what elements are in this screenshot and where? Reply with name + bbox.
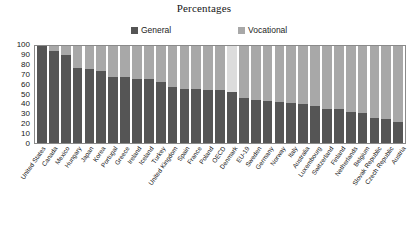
legend-label-general: General: [141, 25, 171, 35]
bar-column: [239, 46, 249, 143]
bar-segment-general: [96, 71, 106, 143]
y-axis-tick-label: 80: [21, 61, 30, 69]
bar-segment-general: [37, 46, 47, 143]
bar-segment-vocational: [96, 46, 106, 71]
bar-segment-vocational: [61, 46, 71, 55]
bar-segment-general: [322, 109, 332, 143]
bar-column: [156, 46, 166, 143]
bar-segment-general: [370, 118, 380, 143]
bar-segment-general: [132, 79, 142, 143]
bar-column: [381, 46, 391, 143]
bar-segment-general: [310, 106, 320, 143]
bar-segment-general: [334, 109, 344, 143]
bar-segment-general: [227, 92, 237, 143]
y-axis-tick-label: 10: [21, 130, 30, 138]
bar-column: [310, 46, 320, 143]
bar-segment-vocational: [108, 46, 118, 77]
bar-column: [168, 46, 178, 143]
bar-segment-general: [120, 77, 130, 143]
bar-segment-vocational: [132, 46, 142, 79]
bar-column: [49, 46, 59, 143]
bar-segment-general: [263, 101, 273, 143]
bar-segment-vocational: [310, 46, 320, 106]
y-axis-tick-label: 90: [21, 51, 30, 59]
bar-column: [108, 46, 118, 143]
bar-segment-vocational: [239, 46, 249, 98]
y-axis-tick-label: 30: [21, 110, 30, 118]
bar-segment-general: [108, 77, 118, 143]
plot-area: [34, 45, 406, 144]
bar-segment-general: [168, 87, 178, 143]
bar-segment-vocational: [180, 46, 190, 89]
bar-segment-vocational: [381, 46, 391, 119]
bar-segment-general: [358, 113, 368, 143]
bar-segment-general: [286, 103, 296, 143]
bar-segment-vocational: [393, 46, 403, 122]
bar-segment-general: [215, 90, 225, 143]
bar-series-group: [35, 46, 405, 143]
bar-segment-vocational: [191, 46, 201, 89]
bar-segment-vocational: [275, 46, 285, 102]
bar-column: [275, 46, 285, 143]
y-axis-tick-label: 100: [17, 41, 30, 49]
y-axis-tick-label: 0: [26, 140, 30, 148]
bar-column: [203, 46, 213, 143]
bar-column: [180, 46, 190, 143]
bar-segment-general: [49, 51, 59, 143]
bar-segment-vocational: [168, 46, 178, 87]
bar-segment-vocational: [85, 46, 95, 69]
bar-segment-vocational: [286, 46, 296, 103]
bar-segment-vocational: [120, 46, 130, 77]
bar-column: [96, 46, 106, 143]
chart-title: Percentages: [0, 2, 408, 14]
y-axis: 1009080706050403020100: [0, 45, 34, 144]
bar-segment-general: [346, 112, 356, 143]
bar-segment-general: [156, 82, 166, 143]
chart-container: Percentages General Vocational 100908070…: [0, 0, 408, 226]
legend-label-vocational: Vocational: [248, 25, 287, 35]
bar-segment-vocational: [251, 46, 261, 100]
bar-segment-vocational: [215, 46, 225, 90]
bar-column: [73, 46, 83, 143]
x-axis-labels: United StatesCanadaMexicoHungaryJapanKor…: [34, 145, 406, 226]
bar-column: [334, 46, 344, 143]
bar-column: [322, 46, 332, 143]
bar-column: [393, 46, 403, 143]
bar-segment-general: [393, 122, 403, 143]
bar-segment-general: [381, 119, 391, 143]
bar-column: [346, 46, 356, 143]
bar-segment-vocational: [227, 46, 237, 92]
legend-item-vocational: Vocational: [238, 25, 287, 35]
bar-column: [263, 46, 273, 143]
bar-segment-general: [203, 90, 213, 143]
y-axis-tick-label: 50: [21, 91, 30, 99]
bar-segment-vocational: [346, 46, 356, 112]
bar-column: [61, 46, 71, 143]
bar-segment-vocational: [73, 46, 83, 68]
y-axis-tick-label: 20: [21, 120, 30, 128]
legend-swatch-vocational-icon: [238, 27, 245, 34]
bar-segment-vocational: [144, 46, 154, 79]
bar-column: [251, 46, 261, 143]
y-axis-tick-label: 40: [21, 100, 30, 108]
bar-segment-vocational: [298, 46, 308, 104]
legend-item-general: General: [131, 25, 171, 35]
y-axis-tick-label: 60: [21, 81, 30, 89]
legend-swatch-general-icon: [131, 27, 138, 34]
bar-segment-vocational: [370, 46, 380, 118]
bar-column: [85, 46, 95, 143]
bar-column: [298, 46, 308, 143]
bar-segment-general: [239, 98, 249, 143]
bar-column: [370, 46, 380, 143]
bar-column: [215, 46, 225, 143]
bar-column: [144, 46, 154, 143]
bar-column: [286, 46, 296, 143]
bar-segment-general: [180, 89, 190, 143]
bar-segment-vocational: [334, 46, 344, 109]
bar-segment-vocational: [203, 46, 213, 90]
bar-segment-general: [85, 69, 95, 143]
bar-segment-general: [275, 102, 285, 143]
chart-legend: General Vocational: [0, 25, 408, 37]
bar-column: [120, 46, 130, 143]
bar-segment-general: [191, 89, 201, 143]
